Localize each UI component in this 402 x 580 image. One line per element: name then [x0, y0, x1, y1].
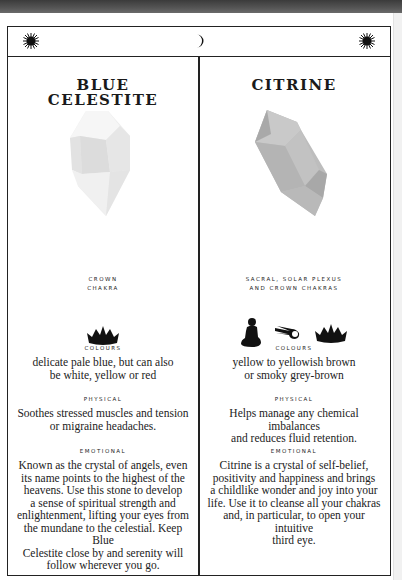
comet-icon — [274, 325, 302, 341]
chakra-line: AND CROWN CHAKRAS — [199, 284, 389, 293]
text-line: a childlike wonder and joy into your — [205, 484, 383, 497]
colours-label: COLOURS — [14, 344, 192, 352]
emotional-label: EMOTIONAL — [205, 447, 383, 455]
colours-text: delicate pale blue, but can also be whit… — [14, 356, 192, 381]
text-line: the mundane to the celestial. Keep Blue — [14, 522, 192, 547]
emotional-section: EMOTIONAL Citrine is a crystal of self-b… — [205, 447, 383, 547]
physical-section: PHYSICAL Helps manage any chemical imbal… — [205, 395, 383, 445]
emotional-text: Citrine is a crystal of self-belief, pos… — [205, 459, 383, 547]
title-line: CELESTITE — [8, 93, 198, 108]
crystal-title: BLUE CELESTITE — [8, 78, 198, 108]
text-line: or migraine headaches. — [14, 420, 192, 433]
emotional-text: Known as the crystal of angels, even its… — [14, 459, 192, 572]
pale-crystal-illustration — [58, 108, 148, 218]
text-line: Soothes stressed muscles and tension — [14, 407, 192, 420]
crescent-moon-icon — [191, 33, 207, 49]
crystal-column-citrine: CITRINE SACRAL, SOLAR PLEXUS AND CROWN C… — [199, 56, 389, 575]
text-line: a sense of spiritual strength and — [14, 497, 192, 510]
title-line: CITRINE — [199, 78, 389, 93]
physical-label: PHYSICAL — [205, 395, 383, 403]
grey-crystal-illustration — [249, 108, 339, 218]
text-line: Celestite close by and serenity will — [14, 547, 192, 560]
text-line: enlightenment, lifting your eyes from — [14, 509, 192, 522]
chakra-line: CROWN — [8, 275, 198, 284]
text-line: delicate pale blue, but can also — [14, 356, 192, 369]
chakra-label: SACRAL, SOLAR PLEXUS AND CROWN CHAKRAS — [199, 275, 389, 293]
page-edge — [393, 13, 402, 580]
colours-section: COLOURS delicate pale blue, but can also… — [14, 344, 192, 381]
sun-icon — [359, 33, 375, 49]
text-line: Known as the crystal of angels, even — [14, 459, 192, 472]
text-line: third eye. — [205, 534, 383, 547]
crown-icon — [314, 323, 348, 343]
crystal-title: CITRINE — [199, 78, 389, 93]
sun-icon — [23, 33, 39, 49]
emotional-section: EMOTIONAL Known as the crystal of angels… — [14, 447, 192, 572]
physical-section: PHYSICAL Soothes stressed muscles and te… — [14, 395, 192, 432]
crown-icon — [86, 325, 120, 345]
colours-label: COLOURS — [205, 344, 383, 352]
text-line: Helps manage any chemical imbalances — [205, 407, 383, 432]
text-line: be white, yellow or red — [14, 369, 192, 382]
card-header — [8, 27, 390, 57]
physical-text: Helps manage any chemical imbalances and… — [205, 407, 383, 445]
physical-text: Soothes stressed muscles and tension or … — [14, 407, 192, 432]
top-band — [0, 0, 402, 13]
chakra-label: CROWN CHAKRA — [8, 275, 198, 293]
chakra-line: SACRAL, SOLAR PLEXUS — [199, 275, 389, 284]
emotional-label: EMOTIONAL — [14, 447, 192, 455]
text-line: life. Use it to cleanse all your chakras — [205, 497, 383, 510]
chakra-line: CHAKRA — [8, 284, 198, 293]
text-line: follow wherever you go. — [14, 559, 192, 572]
text-line: yellow to yellowish brown — [205, 356, 383, 369]
text-line: and, in particular, to open your intuiti… — [205, 509, 383, 534]
text-line: or smoky grey-brown — [205, 369, 383, 382]
crystal-column-blue-celestite: BLUE CELESTITE CROWN CHAKRA COLOURS deli… — [8, 56, 198, 575]
colours-section: COLOURS yellow to yellowish brown or smo… — [205, 344, 383, 381]
crystal-card-frame: BLUE CELESTITE CROWN CHAKRA COLOURS deli… — [7, 26, 391, 576]
text-line: heavens. Use this stone to develop — [14, 484, 192, 497]
colours-text: yellow to yellowish brown or smoky grey-… — [205, 356, 383, 381]
text-line: and reduces fluid retention. — [205, 432, 383, 445]
text-line: positivity and happiness and brings — [205, 472, 383, 485]
physical-label: PHYSICAL — [14, 395, 192, 403]
text-line: its name points to the highest of the — [14, 472, 192, 485]
text-line: Citrine is a crystal of self-belief, — [205, 459, 383, 472]
